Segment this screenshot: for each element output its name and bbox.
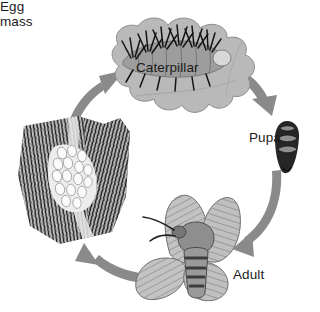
egg-mass-illustration (14, 112, 136, 248)
label-adult: Adult (233, 268, 264, 283)
label-caterpillar: Caterpillar (136, 61, 199, 76)
pupa-illustration (275, 121, 299, 173)
adult-moth-illustration (136, 195, 241, 300)
artwork-layer (0, 0, 320, 312)
life-cycle-diagram: Caterpillar Pupa Adult Egg mass (0, 0, 320, 312)
label-pupa: Pupa (249, 131, 281, 146)
